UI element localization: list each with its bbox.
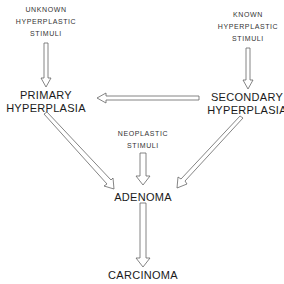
secondary-hyperplasia-label: SECONDARY HYPERPLASIA: [200, 91, 284, 117]
arrow-secondary-to-primary: [97, 93, 199, 103]
known-line-3: STIMULI: [206, 33, 284, 45]
known-stimuli-label: KNOWN HYPERPLASTIC STIMULI: [206, 9, 284, 45]
adenoma-label: ADENOMA: [103, 191, 183, 204]
known-line-1: KNOWN: [206, 9, 284, 21]
arrow-known-to-secondary: [243, 48, 253, 89]
neoplastic-line-2: STIMULI: [103, 140, 183, 152]
unknown-line-2: HYPERPLASTIC: [0, 16, 92, 28]
arrow-secondary-to-adenoma: [177, 116, 243, 188]
carcinoma-label: CARCINOMA: [93, 269, 193, 282]
secondary-line-2: HYPERPLASIA: [200, 104, 284, 117]
neoplastic-line-1: NEOPLASTIC: [103, 128, 183, 140]
unknown-line-1: UNKNOWN: [0, 4, 92, 16]
primary-hyperplasia-label: PRIMARY HYPERPLASIA: [0, 89, 92, 115]
primary-line-2: HYPERPLASIA: [0, 102, 92, 115]
neoplastic-stimuli-label: NEOPLASTIC STIMULI: [103, 128, 183, 152]
arrow-adenoma-to-carcinoma: [136, 203, 150, 267]
unknown-line-3: STIMULI: [0, 28, 92, 40]
arrow-unknown-to-primary: [41, 43, 51, 87]
arrow-neoplastic-to-adenoma: [136, 153, 150, 185]
unknown-stimuli-label: UNKNOWN HYPERPLASTIC STIMULI: [0, 4, 92, 40]
known-line-2: HYPERPLASTIC: [206, 21, 284, 33]
primary-line-1: PRIMARY: [0, 89, 92, 102]
secondary-line-1: SECONDARY: [200, 91, 284, 104]
